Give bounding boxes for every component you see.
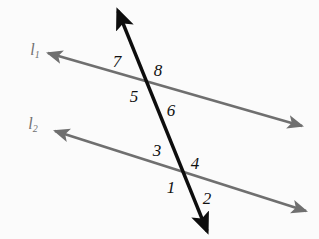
line-l2 xyxy=(55,131,306,211)
line-label-l1: l1 xyxy=(30,42,39,58)
angle-label-5: 5 xyxy=(130,88,139,105)
line-label-l1-subscript: 1 xyxy=(35,49,40,60)
angle-label-6: 6 xyxy=(167,102,176,119)
angle-label-8: 8 xyxy=(154,62,163,79)
angle-label-2: 2 xyxy=(203,190,212,207)
angle-label-1: 1 xyxy=(167,179,176,196)
transversal-line xyxy=(118,11,207,231)
line-label-l2: l2 xyxy=(28,116,37,132)
line-label-l2-subscript: 2 xyxy=(33,123,38,134)
angle-label-4: 4 xyxy=(191,155,200,172)
geometry-figure: l1 l2 7 8 5 6 3 4 1 2 xyxy=(0,0,319,239)
angle-label-3: 3 xyxy=(153,142,162,159)
figure-canvas xyxy=(0,0,319,239)
angle-label-7: 7 xyxy=(113,53,122,70)
